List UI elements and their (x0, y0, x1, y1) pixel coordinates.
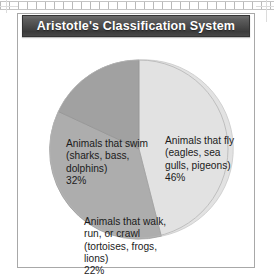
chart-title-banner: Aristotle's Classification System (22, 15, 250, 37)
pie-label-swim-text: Animals that swim (sharks, bass, dolphin… (66, 138, 148, 174)
pie-label-swim-percent: 32% (66, 175, 162, 187)
margin-guide-right (266, 0, 267, 22)
margin-guide-top-right (256, 6, 274, 7)
pie-label-fly-percent: 46% (165, 172, 235, 184)
pie-chart: Animals that swim (sharks, bass, dolphin… (18, 40, 254, 266)
pie-label-swim: Animals that swim (sharks, bass, dolphin… (66, 138, 162, 187)
perforated-edge-decoration (0, 0, 274, 11)
pie-label-fly-text: Animals that fly (eagles, sea gulls, pig… (165, 135, 234, 171)
pie-label-walk-run-crawl: Animals that walk, run, or crawl (tortoi… (84, 216, 184, 275)
pie-label-walk-run-crawl-text: Animals that walk, run, or crawl (tortoi… (84, 216, 166, 264)
pie-label-walk-run-crawl-percent: 22% (84, 265, 184, 275)
perforation-holes (0, 2, 274, 9)
perforation-rule-bottom (0, 9, 274, 10)
chart-title: Aristotle's Classification System (37, 19, 235, 33)
figure-page: Aristotle's Classification System Animal… (0, 0, 274, 275)
margin-guide-top-left (0, 6, 18, 7)
pie-label-fly: Animals that fly (eagles, sea gulls, pig… (165, 135, 235, 184)
